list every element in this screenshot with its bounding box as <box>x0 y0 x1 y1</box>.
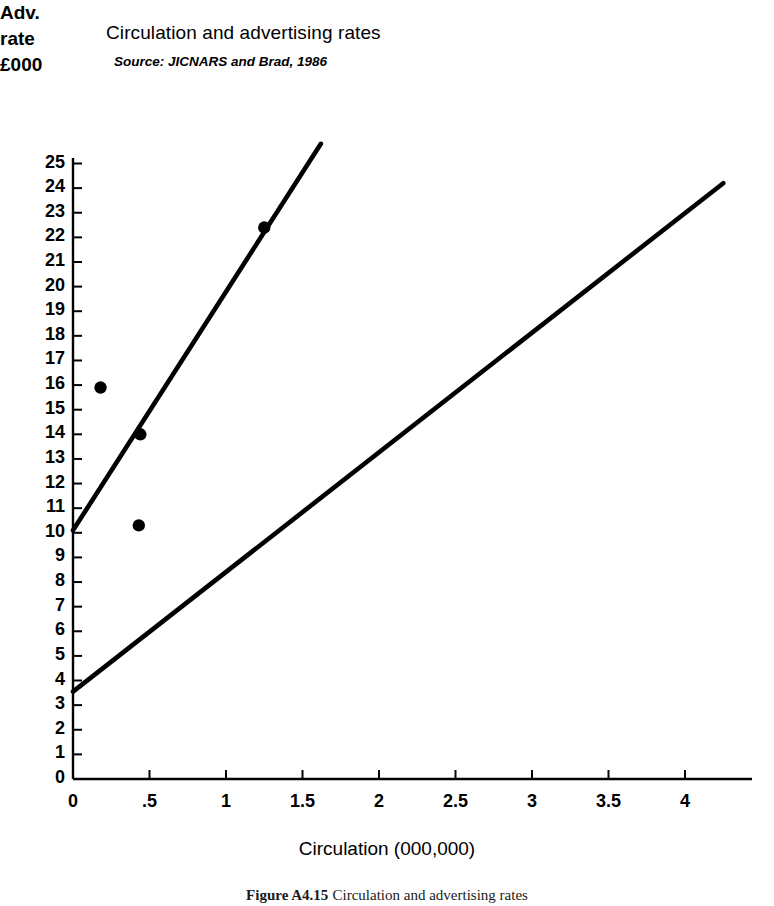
x-tick-label: 0 <box>53 791 93 812</box>
y-tick-label: 21 <box>25 250 65 271</box>
y-tick-label: 12 <box>25 472 65 493</box>
figure-caption: Figure A4.15 Circulation and advertising… <box>0 886 774 904</box>
data-point-broadsheets <box>133 519 145 531</box>
plot-area <box>0 0 774 906</box>
figure-caption-number: Figure A4.15 <box>246 887 328 903</box>
y-tick-label: 5 <box>25 644 65 665</box>
x-tick-label: 3 <box>512 791 552 812</box>
y-tick-label: 4 <box>25 669 65 690</box>
y-tick-label: 20 <box>25 275 65 296</box>
y-tick-label: 14 <box>25 422 65 443</box>
y-tick-label: 2 <box>25 718 65 739</box>
x-tick-label: 4 <box>665 791 705 812</box>
y-tick-label: 7 <box>25 595 65 616</box>
x-tick-label: 2.5 <box>436 791 476 812</box>
y-tick-label: 8 <box>25 570 65 591</box>
x-tick-label: .5 <box>130 791 170 812</box>
y-tick-label: 9 <box>25 545 65 566</box>
y-tick-label: 13 <box>25 447 65 468</box>
trend-line-tabloids <box>73 183 723 691</box>
y-tick-label: 10 <box>25 521 65 542</box>
x-axis-title: Circulation (000,000) <box>0 838 774 860</box>
y-tick-label: 6 <box>25 619 65 640</box>
y-tick-label: 18 <box>25 324 65 345</box>
data-point-broadsheets <box>94 381 106 393</box>
x-tick-label: 1 <box>206 791 246 812</box>
y-tick-label: 16 <box>25 373 65 394</box>
y-tick-label: 15 <box>25 398 65 419</box>
x-tick-label: 2 <box>359 791 399 812</box>
x-axis-ticks <box>150 770 686 779</box>
trend-lines <box>73 144 723 692</box>
y-tick-label: 19 <box>25 299 65 320</box>
y-tick-label: 22 <box>25 225 65 246</box>
y-tick-label: 24 <box>25 176 65 197</box>
y-tick-label: 17 <box>25 348 65 369</box>
x-tick-label: 1.5 <box>283 791 323 812</box>
trend-line-broadsheets <box>73 144 321 531</box>
data-point-broadsheets <box>134 428 146 440</box>
y-tick-label: 25 <box>25 152 65 173</box>
data-point-broadsheets <box>258 221 270 233</box>
figure-canvas: Circulation and advertising rates Source… <box>0 0 774 906</box>
y-tick-label: 23 <box>25 201 65 222</box>
figure-caption-text: Circulation and advertising rates <box>333 887 528 903</box>
x-tick-label: 3.5 <box>589 791 629 812</box>
axes <box>73 158 752 779</box>
y-tick-label: 11 <box>25 496 65 517</box>
y-tick-label: 0 <box>25 767 65 788</box>
y-tick-label: 3 <box>25 693 65 714</box>
y-tick-label: 1 <box>25 742 65 763</box>
